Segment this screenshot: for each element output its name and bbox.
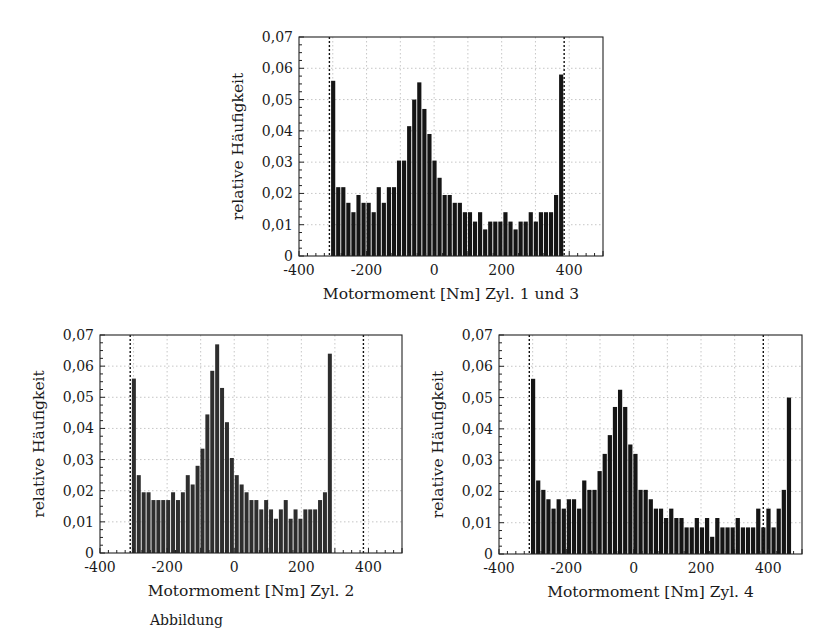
histogram-bars xyxy=(531,379,791,554)
y-tick-label: 0,05 xyxy=(63,389,94,405)
histogram-bar xyxy=(427,134,431,256)
histogram-bars xyxy=(132,344,332,553)
y-tick-label: 0,03 xyxy=(63,452,94,468)
histogram-bar xyxy=(766,509,770,554)
histogram-bar xyxy=(544,212,548,256)
histogram-bar xyxy=(205,414,209,553)
histogram-bar xyxy=(649,499,653,554)
histogram-bar xyxy=(200,449,204,553)
histogram-bar xyxy=(367,203,371,256)
histogram-bar xyxy=(186,475,190,553)
y-tick-label: 0,07 xyxy=(262,29,293,45)
histogram-bar xyxy=(356,195,360,256)
histogram-bar xyxy=(638,490,642,554)
y-axis-label: relative Häufigkeit xyxy=(30,369,48,517)
histogram-bar xyxy=(346,203,350,256)
histogram-bar xyxy=(181,492,185,553)
histogram-bar xyxy=(654,509,658,554)
histogram-bar xyxy=(598,471,602,554)
histogram-bar xyxy=(176,500,180,553)
y-axis: 00,010,020,030,040,050,060,07 xyxy=(462,327,504,562)
histogram-bar xyxy=(417,82,421,256)
histogram-bar xyxy=(554,195,558,256)
histogram-bar xyxy=(372,212,376,256)
x-tick-label: -200 xyxy=(351,262,382,278)
x-axis-label: Motormoment [Nm] Zyl. 4 xyxy=(547,583,754,601)
histogram-bar xyxy=(156,500,160,553)
histogram-bar xyxy=(534,222,538,256)
histogram-bar xyxy=(519,222,523,256)
histogram-bar xyxy=(751,527,755,554)
histogram-bar xyxy=(323,492,327,553)
histogram-bar xyxy=(659,509,663,554)
histogram-bar xyxy=(628,445,632,555)
histogram-bar xyxy=(685,527,689,554)
histogram-bar xyxy=(603,454,607,554)
x-tick-label: -200 xyxy=(551,560,582,576)
histogram-bar xyxy=(572,499,576,554)
histogram-zyl-2: 00,010,020,030,040,050,060,07-400-200020… xyxy=(28,323,410,615)
histogram-bar xyxy=(720,527,724,554)
y-tick-label: 0,03 xyxy=(262,154,293,170)
histogram-bar xyxy=(269,509,273,553)
histogram-bar xyxy=(142,492,146,553)
histogram-bar xyxy=(132,379,136,553)
histogram-bar xyxy=(731,527,735,554)
histogram-bar xyxy=(407,126,411,256)
histogram-bar xyxy=(432,161,436,256)
histogram-bars xyxy=(331,75,563,256)
histogram-zyl-1-und-3: 00,010,020,030,040,050,060,07-400-200020… xyxy=(227,25,611,318)
x-tick-label: 200 xyxy=(288,559,315,575)
y-axis: 00,010,020,030,040,050,060,07 xyxy=(262,29,304,264)
histogram-bar xyxy=(695,518,699,554)
histogram-bar xyxy=(787,398,791,554)
x-tick-label: -400 xyxy=(283,262,314,278)
histogram-bar xyxy=(736,518,740,554)
histogram-bar xyxy=(473,222,477,256)
histogram-bar xyxy=(210,371,214,553)
histogram-bar xyxy=(341,187,345,256)
histogram-bar xyxy=(513,229,517,256)
histogram-bar xyxy=(196,466,200,553)
y-tick-label: 0,06 xyxy=(63,358,94,374)
histogram-bar xyxy=(215,344,219,553)
histogram-bar xyxy=(328,354,332,553)
histogram-bar xyxy=(746,527,750,554)
x-tick-label: 400 xyxy=(355,559,382,575)
histogram-bar xyxy=(562,509,566,554)
histogram-bar xyxy=(577,509,581,554)
histogram-bar xyxy=(644,490,648,554)
histogram-bar xyxy=(674,518,678,554)
histogram-bar xyxy=(508,222,512,256)
x-tick-label: 200 xyxy=(688,560,715,576)
histogram-bar xyxy=(567,499,571,554)
histogram-bar xyxy=(453,203,457,256)
histogram-bar xyxy=(524,222,528,256)
histogram-bar xyxy=(147,492,151,553)
x-tick-label: 0 xyxy=(629,560,638,576)
histogram-bar xyxy=(284,500,288,553)
x-axis-label: Motormoment [Nm] Zyl. 1 und 3 xyxy=(323,285,579,303)
histogram-bar xyxy=(669,509,673,554)
histogram-bar xyxy=(679,518,683,554)
x-tick-label: -200 xyxy=(151,559,182,575)
histogram-bar xyxy=(387,187,391,256)
y-tick-label: 0,01 xyxy=(462,515,493,531)
histogram-bar xyxy=(592,490,596,554)
y-tick-label: 0,02 xyxy=(262,185,293,201)
histogram-bar xyxy=(623,407,627,554)
histogram-bar xyxy=(633,454,637,554)
histogram-bar xyxy=(392,187,396,256)
histogram-bar xyxy=(264,500,268,553)
histogram-bar xyxy=(557,499,561,554)
histogram-bar xyxy=(259,509,263,553)
histogram-bar xyxy=(397,161,401,256)
histogram-bar xyxy=(298,519,302,553)
histogram-bar xyxy=(771,527,775,554)
x-tick-label: -400 xyxy=(84,559,115,575)
y-tick-label: 0,02 xyxy=(462,483,493,499)
histogram-bar xyxy=(402,161,406,256)
x-tick-label: 400 xyxy=(755,560,782,576)
histogram-bar xyxy=(137,475,141,553)
histogram-bar xyxy=(608,435,612,554)
